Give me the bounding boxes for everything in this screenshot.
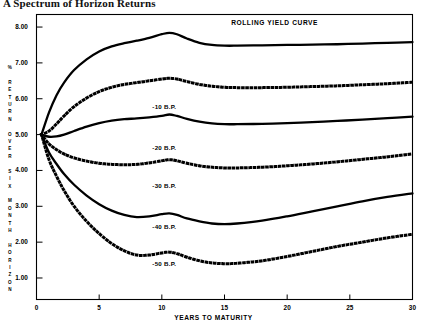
y-axis-tick-label: 2.00 [2, 238, 28, 245]
series-annotation: -40 B.P. [151, 223, 177, 230]
series-annotation: -50 B.P. [151, 260, 177, 267]
y-axis-tick-label: 5.00 [2, 131, 28, 138]
x-axis-tick-label: 20 [277, 304, 297, 311]
chart-canvas [0, 0, 427, 326]
x-axis-tick-label: 5 [89, 304, 109, 311]
x-axis-tick-label: 15 [215, 304, 235, 311]
y-axis-tick-label: 1.00 [2, 274, 28, 281]
y-axis-tick-label: 7.00 [2, 59, 28, 66]
rolling-yield-curve-label: ROLLING YIELD CURVE [231, 19, 318, 26]
series-annotation: -10 B.P. [151, 103, 177, 110]
x-axis-tick-label: 30 [403, 304, 423, 311]
series-annotation: -20 B.P. [151, 144, 177, 151]
y-axis-tick-label: 4.00 [2, 166, 28, 173]
y-axis-tick-label: 8.00 [2, 23, 28, 30]
y-axis-tick-label: 6.00 [2, 95, 28, 102]
x-axis-tick-label: 0 [27, 304, 47, 311]
x-axis-tick-label: 10 [152, 304, 172, 311]
x-axis-tick-label: 25 [340, 304, 360, 311]
y-axis-tick-label: 3.00 [2, 202, 28, 209]
series-annotation: -30 B.P. [151, 182, 177, 189]
x-axis-label: YEARS TO MATURITY [0, 314, 427, 321]
plot-frame [37, 15, 413, 300]
